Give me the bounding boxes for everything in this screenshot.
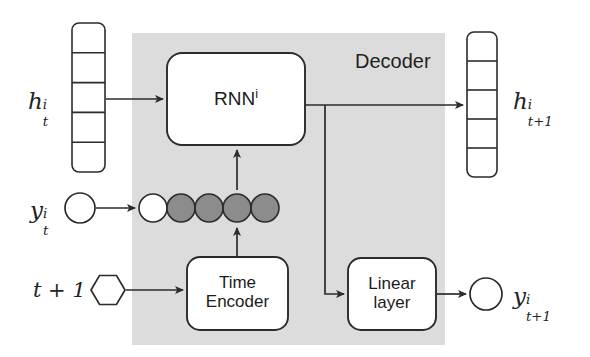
- hidden-state-out-label-base: h: [513, 88, 528, 114]
- observation-in-label: yit: [30, 199, 43, 222]
- linear-layer-label-line1: Linear: [368, 274, 415, 293]
- observation-in-label-subscript: t: [43, 224, 48, 237]
- decoder-region-label: Decoder: [355, 50, 431, 73]
- time-encoder-label-line1: Time: [219, 273, 256, 292]
- prediction-out-label: yit+1: [513, 285, 526, 308]
- observation-in-label-base: y: [30, 197, 43, 223]
- hidden-state-in-label-superscript: i: [43, 98, 47, 111]
- embedding-unit: [195, 194, 223, 222]
- hidden-state-in-label-subscript: t: [43, 115, 48, 128]
- rnn-label-text: RNN: [214, 88, 255, 109]
- observation-in-label-superscript: i: [43, 207, 47, 220]
- prediction-out-label-superscript: i: [526, 293, 530, 306]
- prediction-out-label-subscript: t+1: [526, 310, 551, 323]
- observation-in-circle: [65, 193, 95, 223]
- rnn-block-label: RNNi: [167, 87, 305, 110]
- hidden-state-out-vector: [467, 32, 497, 177]
- hidden-state-out-label-superscript: i: [528, 98, 532, 111]
- hidden-state-in-label-base: h: [28, 88, 43, 114]
- time-index-hexagon: [91, 276, 125, 305]
- embedding-unit: [167, 194, 195, 222]
- hidden-state-in-label: hit: [28, 90, 43, 113]
- hidden-state-out-label-subscript: t+1: [528, 115, 553, 128]
- hidden-state-in-vector: [72, 23, 105, 172]
- hidden-state-out-label: hit+1: [513, 90, 528, 113]
- linear-layer-label-line2: layer: [374, 293, 411, 312]
- embedding-unit: [223, 194, 251, 222]
- diagram-svg: [0, 0, 590, 357]
- prediction-out-label-base: y: [513, 283, 526, 309]
- linear-layer-block-label: Linear layer: [348, 274, 436, 313]
- embedding-unit: [139, 194, 167, 222]
- figure-canvas: Decoder RNNi Time Encoder Linear layer h…: [0, 0, 590, 357]
- time-encoder-label-line2: Encoder: [206, 292, 269, 311]
- time-encoder-block-label: Time Encoder: [187, 273, 288, 312]
- time-index-in-label: t + 1: [33, 280, 86, 301]
- embedding-row: [139, 194, 279, 222]
- rnn-label-superscript: i: [255, 87, 258, 101]
- prediction-out-circle: [470, 278, 502, 310]
- embedding-unit: [251, 194, 279, 222]
